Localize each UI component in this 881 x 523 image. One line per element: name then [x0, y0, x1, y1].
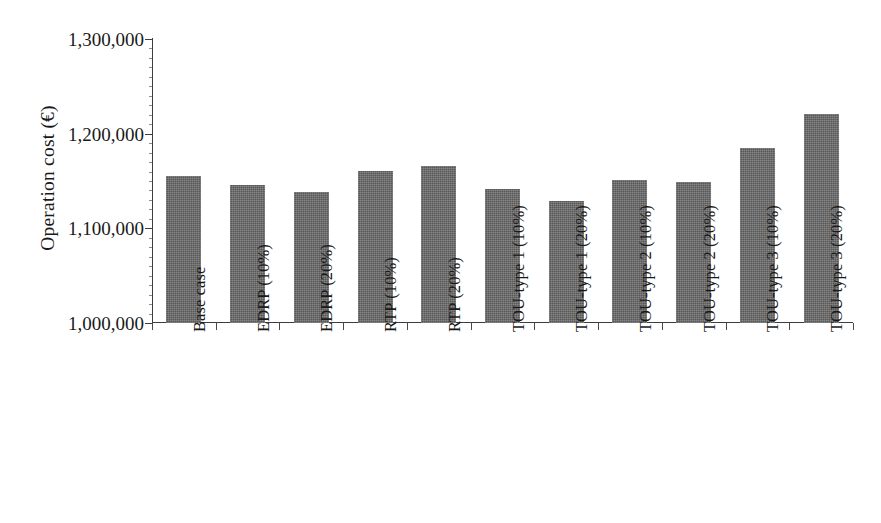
x-axis-tick [726, 323, 727, 330]
y-axis-minor-tick [149, 58, 152, 59]
y-axis-tick-label: 1,100,000 [40, 219, 144, 238]
y-axis-minor-tick [149, 48, 152, 49]
y-axis-minor-tick [149, 124, 152, 125]
y-axis-major-tick [145, 228, 152, 229]
y-axis-major-tick [145, 323, 152, 324]
x-axis-tick [598, 323, 599, 330]
y-axis-major-tick [145, 134, 152, 135]
x-axis-tick [471, 323, 472, 330]
x-axis-tick-label: TOU-type 2 (20%) [701, 152, 719, 332]
x-axis-tick [407, 323, 408, 330]
y-axis-minor-tick [149, 209, 152, 210]
y-axis-minor-tick [149, 257, 152, 258]
y-axis-minor-tick [149, 304, 152, 305]
operation-cost-bar-chart: Operation cost (€) 1,300,0001,200,0001,1… [0, 0, 881, 523]
y-axis-minor-tick [149, 67, 152, 68]
y-axis-major-tick [145, 39, 152, 40]
y-axis-minor-tick [149, 276, 152, 277]
y-axis-tick-label: 1,000,000 [40, 314, 144, 333]
x-axis-tick [789, 323, 790, 330]
x-axis-tick-label: TOU-type 3 (20%) [828, 152, 846, 332]
x-axis-tick-label: TOU-type 1 (20%) [573, 152, 591, 332]
y-axis-minor-tick [149, 105, 152, 106]
x-axis-tick [279, 323, 280, 330]
y-axis-tick-label: 1,300,000 [40, 30, 144, 49]
y-axis-minor-tick [149, 77, 152, 78]
y-axis-minor-tick [149, 172, 152, 173]
x-axis-tick [216, 323, 217, 330]
y-axis-minor-tick [149, 314, 152, 315]
x-axis-tick-label: EDRP (20%) [318, 152, 336, 332]
x-axis-tick [662, 323, 663, 330]
x-axis-tick [152, 323, 153, 330]
y-axis-minor-tick [149, 219, 152, 220]
y-axis-minor-tick [149, 285, 152, 286]
y-axis-minor-tick [149, 143, 152, 144]
y-axis-minor-tick [149, 190, 152, 191]
x-axis-tick-label: EDRP (10%) [255, 152, 273, 332]
y-axis-minor-tick [149, 153, 152, 154]
y-axis-minor-tick [149, 181, 152, 182]
x-axis-tick-label: TOU-type 2 (10%) [637, 152, 655, 332]
x-axis-tick-label: RTP (20%) [446, 152, 464, 332]
x-axis-tick-label: Base case [191, 152, 209, 332]
y-axis-minor-tick [149, 96, 152, 97]
x-axis-tick [343, 323, 344, 330]
y-axis-minor-tick [149, 162, 152, 163]
y-axis-minor-tick [149, 115, 152, 116]
x-axis-tick [534, 323, 535, 330]
x-axis-tick-label: TOU-type 3 (10%) [764, 152, 782, 332]
y-axis-minor-tick [149, 247, 152, 248]
y-axis-minor-tick [149, 266, 152, 267]
x-axis-tick [853, 323, 854, 330]
x-axis-tick-label: TOU-type 1 (10%) [510, 152, 528, 332]
y-axis-tick-labels: 1,300,0001,200,0001,100,0001,000,000 [40, 0, 144, 523]
y-axis-minor-tick [149, 295, 152, 296]
y-axis-minor-tick [149, 238, 152, 239]
y-axis-tick-label: 1,200,000 [40, 125, 144, 144]
y-axis-minor-tick [149, 200, 152, 201]
y-axis-minor-tick [149, 86, 152, 87]
x-axis-tick-label: RTP (10%) [382, 152, 400, 332]
